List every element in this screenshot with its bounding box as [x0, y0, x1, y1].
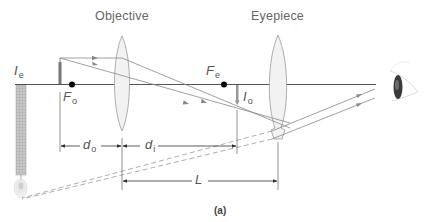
final-virtual-image: [14, 85, 27, 198]
eyepiece-rays: [272, 89, 375, 139]
intermediate-image: [235, 85, 240, 105]
eyepiece-label: Eyepiece: [251, 9, 304, 23]
label-Io: Io: [243, 89, 253, 104]
label-Ie: Ie: [14, 63, 24, 78]
label-Fo: Fo: [63, 89, 77, 104]
object: [59, 58, 62, 84]
microscope-ray-diagram: [0, 0, 434, 222]
eye: [390, 62, 418, 101]
label-L: L: [195, 172, 202, 187]
figure-caption: (a): [214, 205, 226, 216]
focal-point-eyepiece: [221, 82, 227, 88]
objective-label: Objective: [95, 9, 149, 23]
objective-lens: [115, 36, 130, 131]
label-do: do: [83, 137, 96, 152]
label-di: di: [145, 137, 155, 152]
objective-rays: [60, 58, 290, 128]
label-Fe: Fe: [206, 63, 220, 78]
focal-point-objective: [69, 82, 75, 88]
